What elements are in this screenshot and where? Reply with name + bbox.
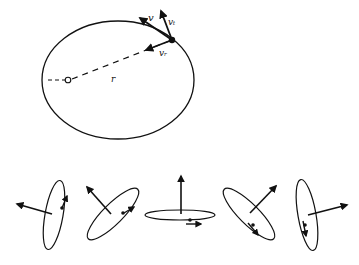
label-r: r <box>111 74 116 84</box>
label-v: v <box>148 12 154 23</box>
orientation-panel-2 <box>81 182 145 246</box>
orientation-panel-3 <box>145 176 215 224</box>
label-vt: vₜ <box>168 17 176 27</box>
orbit-figure: v vₜ vᵣ r <box>42 11 194 139</box>
label-vr: vᵣ <box>159 48 167 58</box>
orientation-panel-1 <box>17 179 69 251</box>
orientation-panel-5 <box>292 178 347 252</box>
orientation-sequence <box>17 176 347 252</box>
focus-point <box>65 77 71 83</box>
orientation-panel-4 <box>217 182 281 246</box>
orbit-diagram: v vₜ vᵣ r <box>0 0 359 265</box>
